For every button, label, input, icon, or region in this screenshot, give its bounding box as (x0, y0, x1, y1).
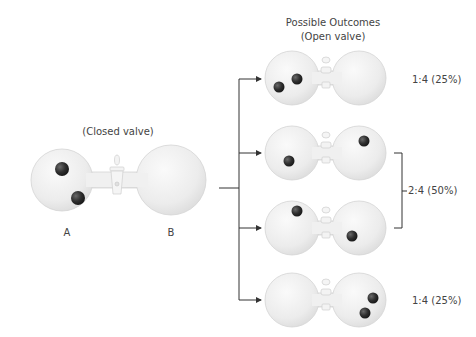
probability-middle: 2:4 (50%) (408, 185, 457, 196)
diagram-canvas (0, 0, 476, 337)
bulb-a-label: A (64, 227, 71, 238)
outcomes-subtitle: (Open valve) (301, 31, 366, 42)
particle (368, 293, 379, 304)
closed-valve-title: (Closed valve) (82, 126, 153, 137)
outcome-flask-both-in-b (265, 273, 386, 327)
particle (274, 82, 285, 93)
bracket-middle (394, 153, 407, 228)
outcome-flask-one-each-1 (265, 126, 386, 180)
outcome-flask-both-in-a (265, 51, 386, 105)
particle (292, 206, 303, 217)
particle (347, 231, 358, 242)
outcome-flask-one-each-2 (265, 201, 386, 255)
bulb-b-label: B (168, 227, 175, 238)
outcomes-title: Possible Outcomes (286, 17, 380, 28)
particle (292, 74, 303, 85)
closed-valve-flask (31, 145, 206, 215)
branch-connector (219, 79, 261, 300)
stopcock-valve-open (321, 132, 331, 163)
particle (55, 162, 69, 176)
probability-top: 1:4 (25%) (412, 74, 461, 85)
stopcock-valve-open (321, 207, 331, 238)
particle (71, 191, 85, 205)
particle (284, 156, 295, 167)
probability-bottom: 1:4 (25%) (412, 295, 461, 306)
particle (360, 308, 371, 319)
stopcock-valve-open (321, 279, 331, 310)
stopcock-valve-open (321, 57, 331, 88)
particle (359, 136, 370, 147)
